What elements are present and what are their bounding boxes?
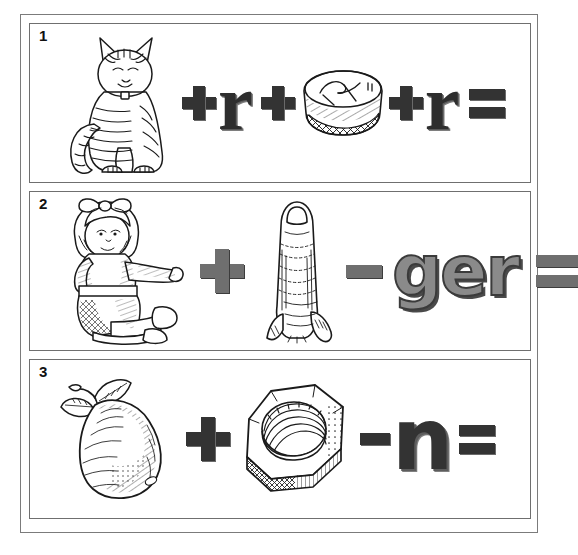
letter-n-label: n xyxy=(392,396,453,482)
equation-row-2: + xyxy=(30,192,530,350)
doll-illustration xyxy=(52,196,188,346)
plus-operator: + xyxy=(200,249,244,293)
letters-ger-label: ger xyxy=(392,236,518,306)
plus-operator: + xyxy=(182,86,216,120)
letter-r: r xyxy=(218,64,253,142)
letter-r-label: r xyxy=(218,64,253,142)
plus-operator: + xyxy=(261,86,295,120)
puzzle-panel-3: 3 xyxy=(29,359,531,519)
letters-ger: ger xyxy=(392,236,518,306)
plus-operator: + xyxy=(389,86,423,120)
letter-r-label: r xyxy=(425,64,460,142)
equals-operator: = xyxy=(536,248,578,294)
hex-nut-illustration xyxy=(236,375,358,503)
equation-row-3: + xyxy=(30,360,530,518)
equals-operator: = xyxy=(459,419,495,459)
equals-operator: = xyxy=(469,83,505,123)
letter-r: r xyxy=(425,64,460,142)
finger-illustration xyxy=(250,196,340,346)
minus-operator: - xyxy=(346,251,382,291)
basket-illustration xyxy=(297,63,389,143)
puzzle-panel-2: 2 xyxy=(29,191,531,351)
minus-operator: - xyxy=(360,422,390,456)
pear-illustration xyxy=(50,369,182,509)
equation-row-1: + r + xyxy=(30,24,530,182)
puzzle-panel-1: 1 xyxy=(29,23,531,183)
cat-illustration xyxy=(56,28,176,178)
letter-n: n xyxy=(392,396,453,482)
puzzle-worksheet: 1 xyxy=(20,14,538,533)
plus-operator: + xyxy=(186,417,230,461)
